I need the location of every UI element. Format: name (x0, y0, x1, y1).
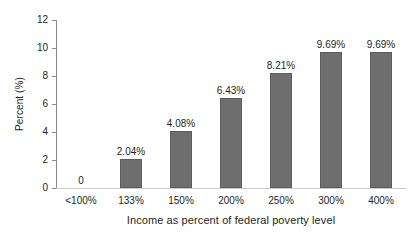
x-axis-line (56, 188, 406, 189)
y-axis-tick-mark (52, 160, 57, 161)
bar (370, 52, 392, 188)
y-axis-tick-label: 12 (20, 15, 48, 25)
bar-value-label: 9.69% (353, 39, 409, 50)
x-axis-tick-label: 133% (103, 195, 159, 207)
bar-value-label: 4.08% (153, 118, 209, 129)
y-axis-tick-label: 8 (20, 71, 48, 81)
bar (320, 52, 342, 188)
bar-chart: Percent (%) 024681012 02.04%4.08%6.43%8.… (0, 0, 412, 237)
x-axis-tick-label: <100% (53, 195, 109, 207)
y-axis-tick-mark (52, 132, 57, 133)
y-axis-tick-mark (52, 104, 57, 105)
y-axis-tick-label: 2 (20, 155, 48, 165)
bar (120, 159, 142, 188)
bar-value-label: 6.43% (203, 85, 259, 96)
x-axis-tick-label: 400% (353, 195, 409, 207)
bar-value-label: 9.69% (303, 39, 359, 50)
y-axis-tick-label: 4 (20, 127, 48, 137)
x-axis-tick-label: 200% (203, 195, 259, 207)
x-axis-tick-label: 300% (303, 195, 359, 207)
y-axis-tick-label: 0 (20, 183, 48, 193)
y-axis-tick-mark (52, 76, 57, 77)
bar-value-label: 0 (53, 175, 109, 186)
bar (170, 131, 192, 188)
bar-value-label: 2.04% (103, 146, 159, 157)
y-axis-tick-label: 6 (20, 99, 48, 109)
x-axis-tick-label: 150% (153, 195, 209, 207)
bar-value-label: 8.21% (253, 60, 309, 71)
y-axis-tick-label: 10 (20, 43, 48, 53)
y-axis-tick-mark (52, 20, 57, 21)
bar (270, 73, 292, 188)
x-axis-tick-label: 250% (253, 195, 309, 207)
bar (220, 98, 242, 188)
y-axis-tick-mark (52, 48, 57, 49)
x-axis-title: Income as percent of federal poverty lev… (56, 214, 406, 226)
